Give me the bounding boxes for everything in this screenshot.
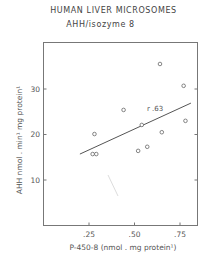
data-point [160,130,164,134]
regression-line [80,103,191,154]
data-point [158,62,162,66]
data-point [182,84,186,88]
x-tick-label: .50 [129,230,141,239]
data-point [136,149,140,153]
data-point [184,119,188,123]
y-tick-label: 20 [30,130,40,139]
data-point [91,152,95,156]
x-tick-label: .75 [174,230,186,239]
stray-mark [108,175,118,196]
y-tick-label: 10 [30,176,40,185]
data-point [140,123,144,127]
data-point [122,108,126,112]
y-axis-label: AHH nmol . min¹ mg protein¹ [15,86,24,194]
scatter-chart: .25.50.75 102030 r .63 P-450-8 (nmol . m… [0,0,211,266]
y-tick-label: 30 [30,85,40,94]
x-tick-label: .25 [83,230,95,239]
data-point [94,152,98,156]
data-point [93,132,97,136]
plot-frame [44,43,198,226]
correlation-annotation: r .63 [147,105,163,113]
data-point [145,145,149,149]
x-axis-label: P-450-8 (nmol . mg protein¹) [69,243,176,252]
